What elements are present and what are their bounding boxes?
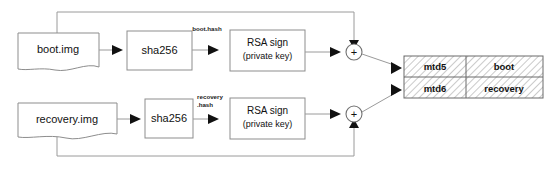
edge-label-recovery-hash-line2: .hash — [197, 101, 213, 108]
arrowhead-rsa-adder-boot — [330, 47, 341, 57]
node-rsa-sign-boot-line2: (private key) — [243, 51, 293, 61]
partition-name-boot: boot — [494, 61, 515, 72]
diagram-canvas: boot.img sha256 boot.hash RSA sign (priv… — [0, 0, 549, 172]
node-adder-boot-label: + — [351, 46, 357, 58]
node-sha256-boot: sha256 — [127, 31, 192, 70]
node-sha256-recovery-label: sha256 — [151, 112, 187, 124]
partition-table: mtd5 boot mtd6 recovery — [404, 56, 543, 98]
wire-bootimg-to-sha256 — [99, 45, 123, 55]
node-sha256-boot-label: sha256 — [141, 44, 177, 56]
edge-label-recovery-hash-line1: recovery — [197, 93, 223, 100]
node-recovery-img-label: recovery.img — [36, 113, 98, 125]
node-rsa-sign-boot: RSA sign (private key) — [230, 30, 305, 71]
arrowhead-adder-boot-table — [391, 62, 402, 74]
wire-sha256-to-rsa-recovery: recovery .hash — [193, 93, 223, 124]
partition-device-mtd6: mtd6 — [424, 83, 447, 94]
wire-rsa-to-adder-recovery — [305, 109, 341, 119]
node-sha256-recovery: sha256 — [145, 99, 193, 138]
node-rsa-sign-boot-line1: RSA sign — [247, 37, 288, 48]
arrowhead-rsa-adder-recovery — [330, 109, 341, 119]
wire-sha256-to-rsa-boot: boot.hash — [192, 25, 222, 55]
arrowhead-recoveryimg-sha256 — [130, 114, 141, 124]
node-rsa-sign-recovery-line2: (private key) — [243, 119, 293, 129]
node-adder-recovery: + — [346, 106, 362, 122]
wire-recoveryimg-to-sha256 — [117, 114, 141, 124]
partition-device-mtd5: mtd5 — [424, 61, 447, 72]
wire-adder-boot-to-table — [362, 54, 402, 74]
arrowhead-sha256-rsa-recovery — [208, 114, 219, 124]
arrowhead-adder-recovery-table — [391, 84, 402, 96]
wire-adder-recovery-to-table — [362, 84, 402, 112]
node-adder-recovery-label: + — [351, 108, 357, 120]
partition-name-recovery: recovery — [484, 83, 524, 94]
node-boot-img: boot.img — [18, 33, 99, 71]
node-adder-boot: + — [346, 44, 362, 60]
node-recovery-img: recovery.img — [18, 103, 117, 139]
node-rsa-sign-recovery: RSA sign (private key) — [230, 98, 305, 139]
arrowhead-bootimg-sha256 — [112, 45, 123, 55]
arrowhead-sha256-rsa-boot — [208, 45, 219, 55]
node-boot-img-label: boot.img — [37, 43, 79, 55]
edge-label-boot-hash: boot.hash — [192, 25, 222, 32]
wire-rsa-to-adder-boot — [305, 47, 341, 57]
signing-flow-diagram: boot.img sha256 boot.hash RSA sign (priv… — [0, 0, 549, 172]
node-rsa-sign-recovery-line1: RSA sign — [247, 105, 288, 116]
